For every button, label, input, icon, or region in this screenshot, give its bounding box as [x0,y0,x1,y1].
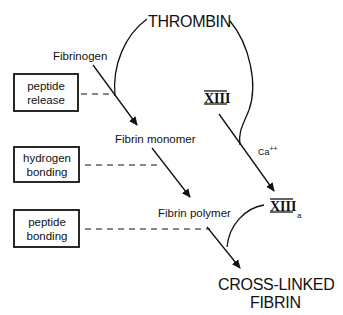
box-text-line1: hydrogen [23,152,71,164]
process-box-hydrogen-bonding: hydrogen bonding [14,147,79,182]
process-box-peptide-bonding: peptide bonding [14,210,79,247]
fibrin-monomer-label: Fibrin monomer [115,133,196,145]
cross-linked-label-line2: FIBRIN [250,294,301,311]
box-text-line2: bonding [27,166,68,178]
fibrinogen-label: Fibrinogen [53,50,107,62]
process-box-peptide-release: peptide release [14,74,78,111]
box-text-line2: release [27,94,65,106]
thrombin-right-arc [230,21,253,145]
xiiia-catalysis-arc [227,205,264,247]
thrombin-label: THROMBIN [148,13,231,30]
box-text-line1: peptide [27,80,65,92]
box-text-line2: bonding [27,230,68,242]
monomer-to-polymer-arrow [152,148,190,197]
fibrin-formation-diagram: THROMBIN Fibrinogen Fibrin monomer Fibri… [0,0,343,315]
cross-linked-label-line1: CROSS-LINKED [218,276,334,293]
box-text-line1: peptide [28,216,66,228]
fibrin-polymer-label: Fibrin polymer [158,207,231,219]
calcium-label: Ca++ [258,145,278,157]
thrombin-left-arc [115,19,147,96]
factor-xiiia-subscript: a [297,211,302,220]
polymer-to-crosslinked-arrow [207,227,240,268]
